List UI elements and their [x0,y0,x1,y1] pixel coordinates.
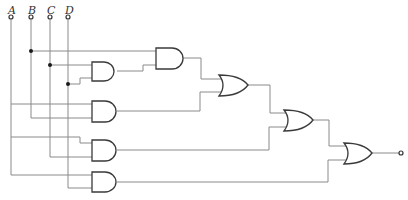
wire-and4-or2 [117,127,286,150]
wires [11,51,399,188]
junction-d [66,82,70,86]
wire-or2-or3 [313,120,346,146]
input-terminal-b [29,15,33,19]
and-gate-2 [156,48,183,69]
junction-b [29,49,33,53]
wire-or1-or2 [248,85,286,113]
wire-and3-or1 [117,92,221,111]
input-terminal-d [66,15,70,19]
junction-c [48,63,52,67]
output-terminal [399,151,403,155]
and-gate-5 [92,172,116,192]
and-gate-1 [92,62,114,81]
and-gate-4 [92,140,116,161]
circuit-canvas: A B C D [0,0,408,200]
or-gate-2 [284,110,313,131]
input-terminal-a [9,15,13,19]
wire-a-and4 [11,137,92,143]
wire-d-and1 [68,78,92,84]
and-gate-3 [92,101,116,122]
wire-and2-or1 [183,58,221,79]
or-gate-3 [344,143,372,164]
input-terminal-c [48,15,52,19]
wire-and5-or3 [117,160,346,182]
logic-circuit-diagram: A B C D [0,0,408,200]
wire-and1-and2 [117,65,156,71]
or-gate-1 [219,75,248,96]
